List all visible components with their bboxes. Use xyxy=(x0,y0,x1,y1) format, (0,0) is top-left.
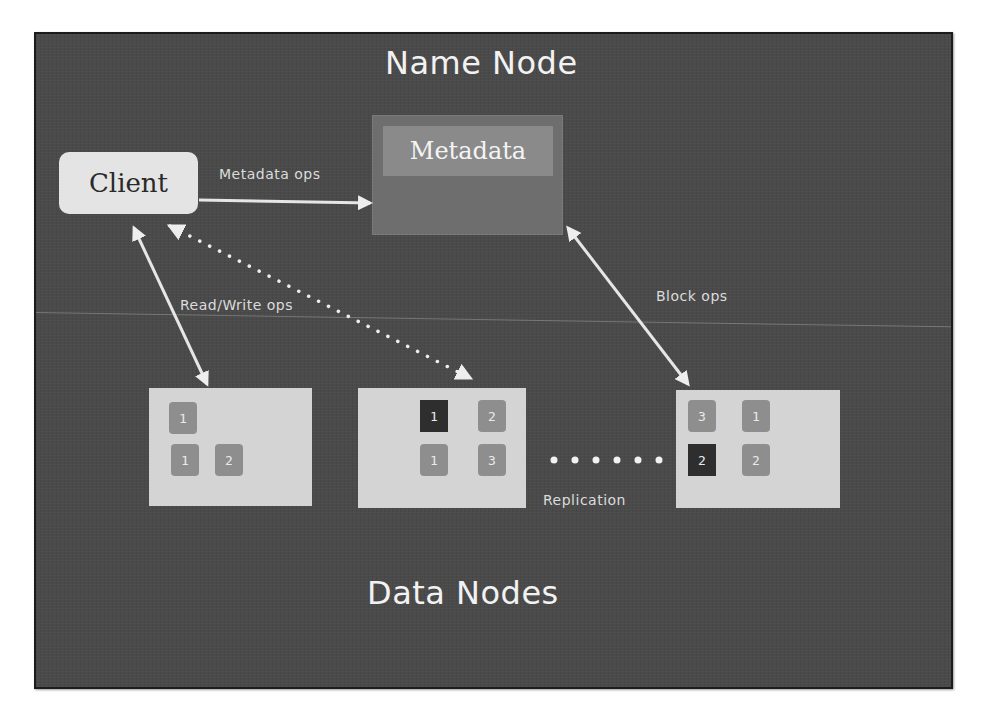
block: 1 xyxy=(420,444,448,476)
block: 3 xyxy=(478,444,506,476)
block: 2 xyxy=(688,444,716,476)
block: 1 xyxy=(420,400,448,432)
block-ops-label: Block ops xyxy=(656,288,728,304)
replication-label: Replication xyxy=(543,492,626,508)
metadata-label-box: Metadata xyxy=(383,126,553,176)
name-node-title: Name Node xyxy=(385,44,578,82)
namenode-metadata-box: Metadata xyxy=(372,115,563,235)
block: 3 xyxy=(688,400,716,432)
metadata-label: Metadata xyxy=(410,137,526,165)
block: 1 xyxy=(169,402,197,434)
read-write-ops-label: Read/Write ops xyxy=(180,297,293,313)
datanode-2: 1 2 1 3 xyxy=(358,388,526,508)
block: 2 xyxy=(742,444,770,476)
data-nodes-title: Data Nodes xyxy=(367,574,559,612)
block: 2 xyxy=(215,444,243,476)
metadata-ops-label: Metadata ops xyxy=(219,166,321,182)
datanode-3: 3 1 2 2 xyxy=(676,390,840,508)
block: 2 xyxy=(478,400,506,432)
client-node: Client xyxy=(59,152,198,214)
block: 1 xyxy=(171,444,199,476)
datanode-1: 1 1 2 xyxy=(149,388,312,506)
client-label: Client xyxy=(89,168,168,198)
block: 1 xyxy=(742,400,770,432)
